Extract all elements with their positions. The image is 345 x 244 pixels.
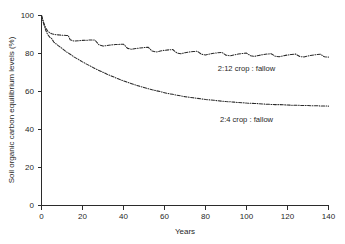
x-tick-label-40: 40: [119, 212, 128, 221]
x-tick-label-0: 0: [39, 212, 44, 221]
y-tick-label-40: 40: [25, 125, 34, 134]
x-tick-label-140: 140: [322, 212, 336, 221]
y-tick-labels: 0 20 40 60 80 100: [21, 11, 35, 210]
x-axis-ticks: [42, 206, 329, 210]
series-line-2-12-crop-fallow: [42, 16, 329, 58]
y-tick-label-60: 60: [25, 87, 34, 96]
x-tick-label-100: 100: [240, 212, 254, 221]
x-axis-title: Years: [175, 227, 195, 236]
x-tick-label-80: 80: [201, 212, 210, 221]
y-tick-label-20: 20: [25, 163, 34, 172]
chart-figure: 0 20 40 60 80 100 0 20 40 60 80 100 120 …: [0, 0, 345, 244]
x-tick-label-20: 20: [78, 212, 87, 221]
y-tick-label-100: 100: [21, 11, 35, 20]
y-tick-label-0: 0: [30, 201, 35, 210]
series-annotation-2-4-crop-fallow: 2:4 crop : fallow: [220, 115, 274, 124]
series-line-2-4-crop-fallow: [42, 16, 329, 107]
series-annotation-2-12-crop-fallow: 2:12 crop : fallow: [218, 64, 276, 73]
y-tick-label-80: 80: [25, 49, 34, 58]
x-tick-label-60: 60: [160, 212, 169, 221]
x-tick-label-120: 120: [281, 212, 295, 221]
x-tick-labels: 0 20 40 60 80 100 120 140: [39, 212, 335, 221]
y-axis-ticks: [38, 16, 42, 206]
line-chart: 0 20 40 60 80 100 0 20 40 60 80 100 120 …: [0, 0, 345, 244]
y-axis-title: Soil organic carbon equilibrium levels (…: [7, 36, 16, 183]
